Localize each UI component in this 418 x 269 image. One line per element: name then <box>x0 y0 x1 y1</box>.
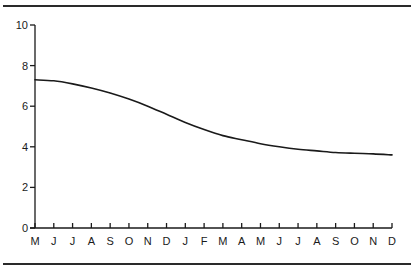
y-tick-label: 0 <box>22 222 28 234</box>
data-line <box>35 80 392 155</box>
bottom-rule <box>3 263 411 265</box>
x-tick-label: M <box>218 235 227 247</box>
x-tick-label: J <box>51 235 57 247</box>
x-tick-label: A <box>238 235 246 247</box>
x-tick-label: A <box>313 235 321 247</box>
x-tick-label: D <box>388 235 396 247</box>
x-tick-label: J <box>277 235 283 247</box>
x-axis: MJJASONDJFMAMJJASOND <box>30 223 396 247</box>
x-tick-label: S <box>332 235 339 247</box>
x-tick-label: F <box>201 235 208 247</box>
x-tick-label: O <box>125 235 134 247</box>
y-tick-label: 4 <box>22 141 28 153</box>
x-tick-label: O <box>350 235 359 247</box>
x-tick-label: M <box>256 235 265 247</box>
x-tick-label: J <box>295 235 301 247</box>
x-tick-label: N <box>369 235 377 247</box>
x-tick-label: S <box>106 235 113 247</box>
x-tick-label: D <box>163 235 171 247</box>
x-tick-label: J <box>70 235 76 247</box>
x-tick-label: J <box>183 235 189 247</box>
y-tick-label: 6 <box>22 100 28 112</box>
line-chart: 0246810 MJJASONDJFMAMJJASOND <box>0 0 418 269</box>
x-tick-label: N <box>144 235 152 247</box>
y-tick-label: 8 <box>22 60 28 72</box>
y-tick-label: 2 <box>22 181 28 193</box>
y-axis: 0246810 <box>16 19 35 234</box>
x-tick-label: A <box>88 235 96 247</box>
y-tick-label: 10 <box>16 19 28 31</box>
x-tick-label: M <box>30 235 39 247</box>
